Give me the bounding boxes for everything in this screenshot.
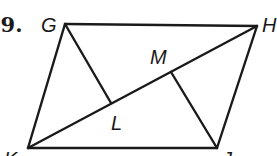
vertex-label-h: H [262, 14, 277, 36]
vertex-label-k: K [4, 148, 19, 156]
segment-gh [65, 24, 257, 26]
diagram-canvas: 29. G H J K L M [0, 0, 277, 156]
segment-gl [65, 24, 111, 103]
segment-jm [171, 72, 217, 148]
vertex-label-g: G [41, 14, 57, 36]
parallelogram-diagram: 29. G H J K L M [0, 0, 277, 156]
vertex-label-j: J [221, 148, 233, 156]
segment-kg [28, 24, 65, 148]
point-label-l: L [111, 112, 122, 134]
diagram-segments [28, 24, 257, 148]
problem-number: 29. [0, 12, 23, 37]
point-label-m: M [150, 46, 167, 68]
